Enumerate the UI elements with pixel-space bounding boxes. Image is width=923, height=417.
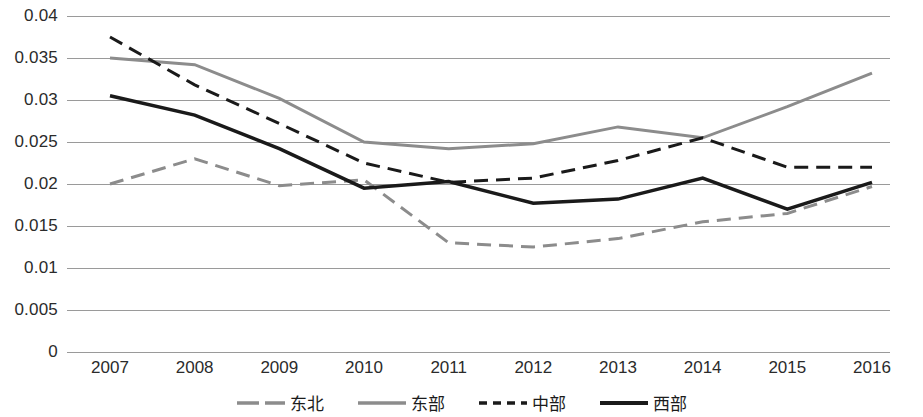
series-line-中部 xyxy=(110,37,872,182)
legend-swatch xyxy=(237,396,285,410)
legend-item-东北[interactable]: 东北 xyxy=(237,390,324,415)
legend-label: 东部 xyxy=(411,390,445,415)
series-line-西部 xyxy=(110,96,872,209)
legend-label: 西部 xyxy=(653,390,687,415)
series-line-东部 xyxy=(110,58,872,149)
legend-item-西部[interactable]: 西部 xyxy=(600,390,687,415)
legend-item-中部[interactable]: 中部 xyxy=(479,390,566,415)
legend-swatch xyxy=(600,396,648,410)
series-lines xyxy=(0,0,923,417)
legend-item-东部[interactable]: 东部 xyxy=(358,390,445,415)
series-line-东北 xyxy=(110,159,872,247)
chart-legend: 东北东部中部西部 xyxy=(0,388,923,417)
legend-swatch xyxy=(358,396,406,410)
legend-label: 东北 xyxy=(290,390,324,415)
line-chart: 00.0050.010.0150.020.0250.030.0350.04 20… xyxy=(0,0,923,417)
legend-swatch xyxy=(479,396,527,410)
legend-label: 中部 xyxy=(532,390,566,415)
